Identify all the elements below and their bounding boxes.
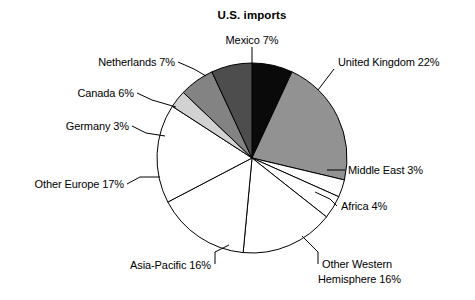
pie-wedge-group xyxy=(157,63,347,253)
slice-label-middle-east: Middle East 3% xyxy=(348,164,423,176)
slice-label-other-western-hemisphere-line2: Hemisphere 16% xyxy=(318,273,401,285)
leader-line-netherlands xyxy=(178,62,206,76)
chart-title: U.S. imports xyxy=(218,9,287,21)
leader-line-other-europe xyxy=(127,177,160,184)
slice-label-united-kingdom: United Kingdom 22% xyxy=(338,56,440,68)
slice-label-asia-pacific: Asia-Pacific 16% xyxy=(130,259,211,271)
slice-label-africa: Africa 4% xyxy=(341,200,387,212)
slice-label-canada: Canada 6% xyxy=(77,87,134,99)
leader-line-canada xyxy=(137,93,176,107)
slice-label-germany: Germany 3% xyxy=(66,120,130,132)
pie-chart: U.S. imports Mexico 7% United Kingdom 22… xyxy=(0,0,475,300)
slice-label-mexico: Mexico 7% xyxy=(226,34,279,46)
slice-label-netherlands: Netherlands 7% xyxy=(98,56,175,68)
chart-canvas: U.S. imports Mexico 7% United Kingdom 22… xyxy=(0,0,475,300)
leader-line-owh xyxy=(302,236,318,264)
leader-line-uk xyxy=(318,69,334,90)
slice-label-other-europe: Other Europe 17% xyxy=(34,178,124,190)
slice-label-other-western-hemisphere-line1: Other Western xyxy=(322,258,392,270)
